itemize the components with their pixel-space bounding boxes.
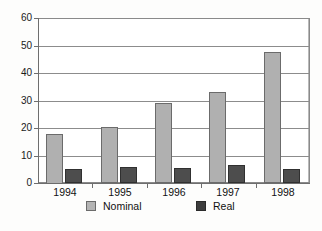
y-axis-label-wrap: 10: [0, 151, 32, 161]
legend-item-real: Real: [196, 199, 235, 213]
y-axis-label-wrap: 20: [0, 123, 32, 133]
y-axis-label-wrap: 0: [0, 178, 32, 188]
y-axis-label: 20: [2, 123, 32, 133]
y-axis-tick: [34, 183, 38, 184]
gridline: [38, 46, 310, 47]
y-axis-tick: [34, 128, 38, 129]
bar-nominal-1996: [155, 103, 172, 183]
y-axis-label-wrap: 30: [0, 96, 32, 106]
legend-label-real: Real: [213, 201, 235, 212]
bar-real-1995: [120, 167, 137, 183]
y-axis-tick: [34, 73, 38, 74]
x-axis-tick: [147, 183, 148, 188]
y-axis-label: 10: [2, 151, 32, 161]
x-axis-label: 1995: [98, 186, 142, 198]
bar-nominal-1994: [46, 134, 63, 184]
bar-real-1998: [283, 169, 300, 183]
y-axis-label-wrap: 50: [0, 41, 32, 51]
y-axis-label-wrap: 40: [0, 68, 32, 78]
y-axis-tick: [34, 46, 38, 47]
y-axis-tick: [34, 101, 38, 102]
y-axis-label: 40: [2, 68, 32, 78]
bar-chart: 0102030405060 19941995199619971998 Nomin…: [0, 0, 322, 231]
x-axis-label: 1996: [152, 186, 196, 198]
x-axis-tick: [92, 183, 93, 188]
y-axis-label-wrap: 60: [0, 13, 32, 23]
y-axis-label: 30: [2, 96, 32, 106]
y-axis-label: 50: [2, 41, 32, 51]
y-axis-tick: [34, 156, 38, 157]
x-axis-label: 1997: [206, 186, 250, 198]
y-axis-line: [38, 18, 39, 184]
x-axis-label: 1998: [261, 186, 305, 198]
x-axis-line: [38, 183, 310, 184]
legend-item-nominal: Nominal: [86, 199, 142, 213]
y-axis-label: 60: [2, 13, 32, 23]
legend: Nominal Real: [38, 199, 310, 215]
x-axis-label: 1994: [43, 186, 87, 198]
bar-real-1997: [228, 165, 245, 183]
legend-swatch-nominal-icon: [86, 201, 96, 211]
x-axis-tick: [256, 183, 257, 188]
y-axis-tick: [34, 18, 38, 19]
legend-swatch-real-icon: [196, 201, 206, 211]
bar-real-1994: [65, 169, 82, 183]
bar-nominal-1997: [209, 92, 226, 183]
y-axis-label: 0: [2, 178, 32, 188]
bar-nominal-1998: [264, 52, 281, 183]
bar-real-1996: [174, 168, 191, 183]
bar-nominal-1995: [101, 127, 118, 183]
x-axis-tick: [201, 183, 202, 188]
legend-label-nominal: Nominal: [103, 201, 142, 212]
